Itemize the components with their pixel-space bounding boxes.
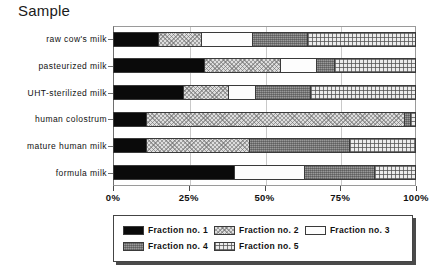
bar-segment[interactable] bbox=[113, 58, 204, 73]
bar-row[interactable] bbox=[113, 159, 416, 186]
bar-segment[interactable] bbox=[249, 138, 349, 153]
bar-row[interactable] bbox=[113, 79, 416, 106]
bar-row[interactable] bbox=[113, 26, 416, 53]
legend-label: Fraction no. 5 bbox=[239, 241, 299, 251]
bar-segment[interactable] bbox=[410, 112, 416, 127]
legend-swatch-icon bbox=[214, 242, 235, 251]
stacked-bars-layer bbox=[113, 26, 416, 186]
bar-row[interactable] bbox=[113, 133, 416, 160]
x-axis-tick-label: 0% bbox=[106, 192, 120, 203]
x-axis-tick-mark bbox=[340, 186, 341, 191]
y-axis-tick-label: mature human milk bbox=[0, 141, 107, 151]
bar-segment[interactable] bbox=[234, 165, 304, 180]
bar-track bbox=[113, 85, 416, 100]
bar-segment[interactable] bbox=[146, 138, 249, 153]
x-axis-tick-mark bbox=[189, 186, 190, 191]
bar-row[interactable] bbox=[113, 53, 416, 80]
y-axis-tick-mark bbox=[108, 39, 113, 40]
bar-segment[interactable] bbox=[307, 32, 416, 47]
x-axis-tick-mark bbox=[416, 186, 417, 191]
bar-segment[interactable] bbox=[113, 112, 146, 127]
x-axis-tick-mark bbox=[265, 186, 266, 191]
bar-segment[interactable] bbox=[255, 85, 310, 100]
x-axis-tick-label: 50% bbox=[255, 192, 275, 203]
y-axis-tick-mark bbox=[108, 93, 113, 94]
y-axis-tick-label: UHT-sterilized milk bbox=[0, 88, 107, 98]
page-title: Sample bbox=[18, 2, 70, 19]
y-axis-tick-mark bbox=[108, 119, 113, 120]
bar-track bbox=[113, 165, 416, 180]
y-axis-tick-mark bbox=[108, 173, 113, 174]
bar-segment[interactable] bbox=[204, 58, 280, 73]
x-axis: 0%25%50%75%100% bbox=[113, 186, 416, 208]
bar-segment[interactable] bbox=[280, 58, 316, 73]
legend-item[interactable]: Fraction no. 4 bbox=[123, 241, 208, 251]
bar-segment[interactable] bbox=[113, 32, 158, 47]
bar-segment[interactable] bbox=[310, 85, 416, 100]
bar-track bbox=[113, 58, 416, 73]
legend-row: Fraction no. 1Fraction no. 2Fraction no.… bbox=[123, 222, 412, 238]
legend-item[interactable]: Fraction no. 3 bbox=[305, 225, 390, 235]
y-axis-tick-label: raw cow's milk bbox=[0, 34, 107, 44]
bar-segment[interactable] bbox=[228, 85, 255, 100]
bar-track bbox=[113, 32, 416, 47]
legend-label: Fraction no. 2 bbox=[239, 225, 299, 235]
legend-label: Fraction no. 4 bbox=[148, 241, 208, 251]
bar-segment[interactable] bbox=[158, 32, 200, 47]
legend-label: Fraction no. 1 bbox=[148, 225, 208, 235]
legend-swatch-icon bbox=[305, 226, 326, 235]
bar-segment[interactable] bbox=[113, 165, 234, 180]
bar-segment[interactable] bbox=[316, 58, 334, 73]
legend-swatch-icon bbox=[123, 242, 144, 251]
legend-item[interactable]: Fraction no. 2 bbox=[214, 225, 299, 235]
x-axis-tick-label: 100% bbox=[403, 192, 429, 203]
x-axis-tick-label: 25% bbox=[179, 192, 199, 203]
bar-segment[interactable] bbox=[374, 165, 416, 180]
bar-segment[interactable] bbox=[113, 138, 146, 153]
legend-swatch-icon bbox=[214, 226, 235, 235]
bar-segment[interactable] bbox=[349, 138, 416, 153]
y-axis-tick-label: human colostrum bbox=[0, 114, 107, 124]
chart-legend: Fraction no. 1Fraction no. 2Fraction no.… bbox=[113, 215, 413, 262]
legend-row: Fraction no. 4Fraction no. 5 bbox=[123, 238, 412, 254]
y-axis-labels: raw cow's milkpasteurized milkUHT-steril… bbox=[0, 26, 107, 186]
bar-track bbox=[113, 138, 416, 153]
legend-label: Fraction no. 3 bbox=[330, 225, 390, 235]
bar-segment[interactable] bbox=[183, 85, 228, 100]
x-axis-tick-label: 75% bbox=[330, 192, 350, 203]
bar-track bbox=[113, 112, 416, 127]
y-axis-tick-mark bbox=[108, 146, 113, 147]
bar-segment[interactable] bbox=[304, 165, 374, 180]
x-axis-tick-mark bbox=[113, 186, 114, 191]
legend-item[interactable]: Fraction no. 5 bbox=[214, 241, 299, 251]
bar-segment[interactable] bbox=[201, 32, 253, 47]
legend-item[interactable]: Fraction no. 1 bbox=[123, 225, 208, 235]
bar-segment[interactable] bbox=[113, 85, 183, 100]
bar-row[interactable] bbox=[113, 106, 416, 133]
bar-segment[interactable] bbox=[146, 112, 404, 127]
y-axis-tick-label: formula milk bbox=[0, 168, 107, 178]
bar-segment[interactable] bbox=[334, 58, 416, 73]
y-axis-tick-label: pasteurized milk bbox=[0, 61, 107, 71]
y-axis-tick-mark bbox=[108, 66, 113, 67]
bar-segment[interactable] bbox=[252, 32, 307, 47]
legend-swatch-icon bbox=[123, 226, 144, 235]
